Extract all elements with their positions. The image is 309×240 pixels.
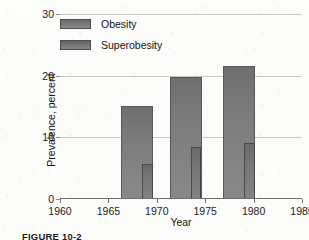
y-tick-label-0: 0 xyxy=(48,193,54,205)
bar-superobesity-1968 xyxy=(142,164,153,198)
y-tick-label-20: 20 xyxy=(42,70,54,82)
obesity-swatch-icon xyxy=(60,19,91,29)
x-axis-title: Year xyxy=(60,216,302,228)
x-axis-line xyxy=(60,198,302,199)
x-tick-mark-1985 xyxy=(302,199,303,203)
bar-superobesity-1978.5 xyxy=(244,143,255,199)
y-axis-title: Prevalence, percent xyxy=(45,73,57,166)
superobesity-swatch-icon xyxy=(60,40,91,50)
y-tick-mark-10 xyxy=(56,137,60,138)
gridline-y-30 xyxy=(60,14,302,15)
legend-item-obesity: Obesity xyxy=(60,18,162,30)
legend-item-superobesity: Superobesity xyxy=(60,39,162,51)
figure-page: Prevalence, percent 0102030 196019651970… xyxy=(0,0,309,240)
x-tick-mark-1975 xyxy=(205,199,206,203)
chart-legend: Obesity Superobesity xyxy=(60,18,162,60)
legend-label-superobesity: Superobesity xyxy=(101,39,162,51)
x-tick-mark-1960 xyxy=(60,199,61,203)
figure-caption: FIGURE 10-2 xyxy=(22,231,82,240)
y-tick-label-10: 10 xyxy=(42,131,54,143)
x-tick-mark-1980 xyxy=(254,199,255,203)
bar-superobesity-1973 xyxy=(191,147,202,198)
x-tick-mark-1965 xyxy=(108,199,109,203)
legend-label-obesity: Obesity xyxy=(101,18,137,30)
x-tick-mark-1970 xyxy=(157,199,158,203)
y-tick-mark-20 xyxy=(56,76,60,77)
y-tick-mark-30 xyxy=(56,14,60,15)
y-tick-label-30: 30 xyxy=(42,8,54,20)
